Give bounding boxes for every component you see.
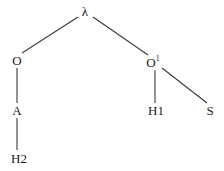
node-a: A [12,104,21,117]
edge-root-o [22,17,78,53]
node-s: S [206,104,213,117]
node-o1: O1 [146,56,159,69]
edge-root-o1 [93,17,148,55]
node-root: λ [82,5,88,18]
node-h2: H2 [11,152,27,165]
tree-edges [0,0,224,171]
node-o1-superscript: 1 [156,54,160,63]
node-o: O [12,54,21,67]
node-h1: H1 [148,104,164,117]
tree-diagram: λ O O1 A H1 S H2 [0,0,224,171]
edge-o1-s [162,68,207,103]
